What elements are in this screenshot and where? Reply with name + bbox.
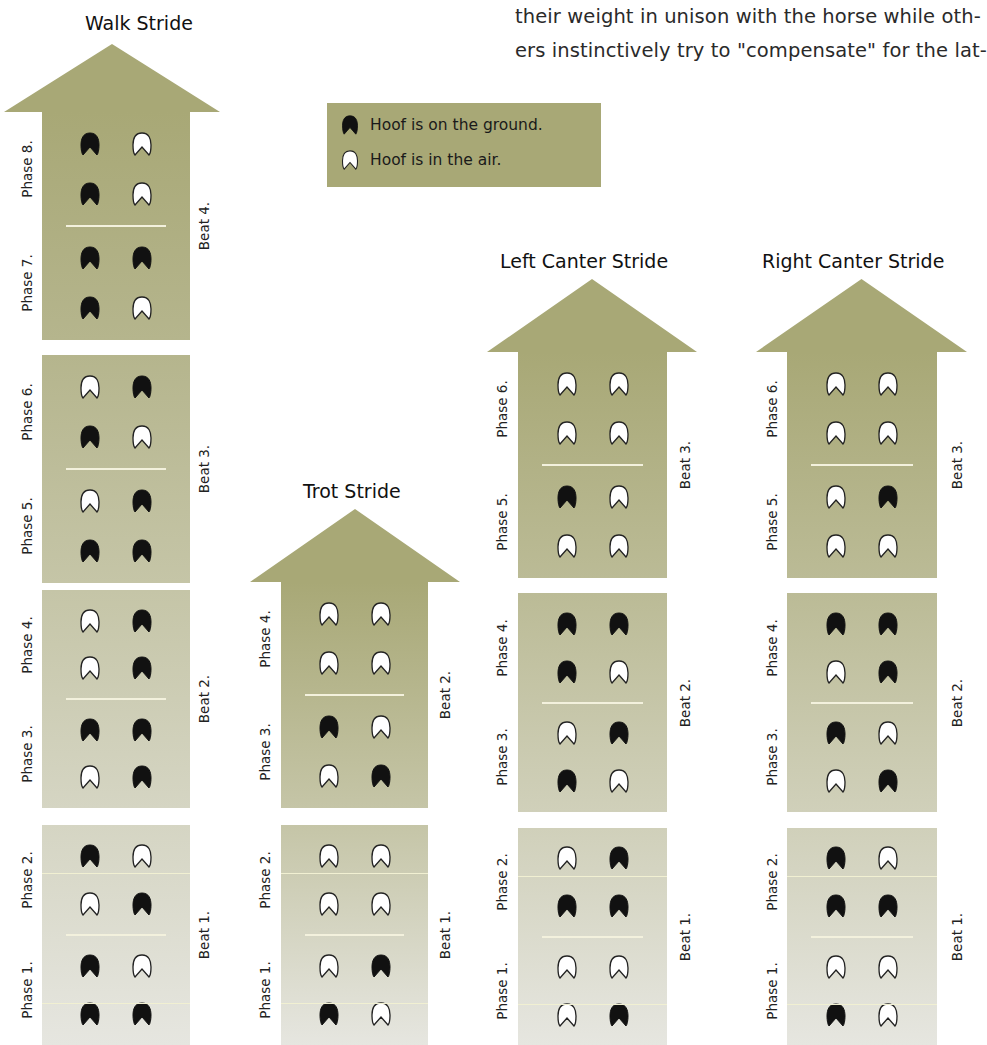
hoof-outline-icon xyxy=(826,769,846,793)
phase-label: Phase 6. xyxy=(764,364,782,454)
beat-label: Beat 2. xyxy=(677,663,695,743)
legend-air: Hoof is in the air. xyxy=(341,150,501,170)
hoof-filled-icon xyxy=(826,1003,846,1027)
hoof-outline-icon xyxy=(132,425,152,449)
stride-title: Trot Stride xyxy=(303,480,401,502)
phase-label: Phase 2. xyxy=(19,835,37,925)
hoof-outline-icon xyxy=(371,602,391,626)
hoof-outline-icon xyxy=(609,955,629,979)
phase-divider xyxy=(542,936,643,938)
hoof-outline-icon xyxy=(609,534,629,558)
hoof-filled-icon xyxy=(878,894,898,918)
phase-divider xyxy=(542,464,643,466)
hoof-outline-icon xyxy=(371,844,391,868)
hoof-filled-icon xyxy=(878,485,898,509)
hoof-outline-icon xyxy=(609,485,629,509)
hoof-filled-icon xyxy=(609,721,629,745)
hoof-filled-icon xyxy=(371,764,391,788)
phase-label: Phase 5. xyxy=(494,477,512,567)
phase-label: Phase 4. xyxy=(764,603,782,693)
hoof-outline-icon xyxy=(80,375,100,399)
beat-label: Beat 1. xyxy=(437,895,455,975)
hoof-outline-icon xyxy=(826,534,846,558)
faint-line xyxy=(787,1004,937,1005)
phase-label: Phase 2. xyxy=(257,835,275,925)
hoof-filled-icon xyxy=(557,612,577,636)
phase-label: Phase 1. xyxy=(19,945,37,1035)
hoof-outline-icon xyxy=(132,132,152,156)
arrow-head-icon xyxy=(487,279,697,353)
hoof-outline-icon xyxy=(826,421,846,445)
hoof-outline-icon xyxy=(826,660,846,684)
beat-label: Beat 3. xyxy=(949,425,967,505)
hoof-filled-icon xyxy=(878,612,898,636)
hoof-filled-icon xyxy=(132,892,152,916)
hoof-outline-icon xyxy=(132,182,152,206)
phase-label: Phase 1. xyxy=(494,946,512,1036)
hoof-outline-icon xyxy=(371,715,391,739)
hoof-outline-icon xyxy=(319,602,339,626)
stride-title: Left Canter Stride xyxy=(500,250,668,272)
hoof-outline-icon xyxy=(826,955,846,979)
stride-title: Right Canter Stride xyxy=(762,250,944,272)
hoof-filled-icon xyxy=(878,769,898,793)
phase-label: Phase 2. xyxy=(494,837,512,927)
beat-label: Beat 2. xyxy=(196,659,214,739)
hoof-outline-icon xyxy=(557,1003,577,1027)
hoof-outline-icon xyxy=(609,660,629,684)
hoof-outline-icon xyxy=(341,150,359,170)
phase-divider xyxy=(66,225,166,227)
legend-box: Hoof is on the ground. Hoof is in the ai… xyxy=(327,103,601,187)
arrow-head-icon xyxy=(756,279,967,353)
hoof-filled-icon xyxy=(826,612,846,636)
hoof-outline-icon xyxy=(878,421,898,445)
phase-label: Phase 5. xyxy=(19,481,37,571)
faint-line xyxy=(518,876,667,877)
hoof-filled-icon xyxy=(878,660,898,684)
paragraph-line: their weight in unison with the horse wh… xyxy=(515,0,987,34)
hoof-outline-icon xyxy=(878,1003,898,1027)
hoof-filled-icon xyxy=(319,1002,339,1026)
hoof-filled-icon xyxy=(557,660,577,684)
hoof-filled-icon xyxy=(80,844,100,868)
hoof-filled-icon xyxy=(826,721,846,745)
beat-label: Beat 1. xyxy=(196,895,214,975)
beat-label: Beat 1. xyxy=(677,897,695,977)
hoof-filled-icon xyxy=(132,1002,152,1026)
phase-divider xyxy=(305,934,404,936)
hoof-outline-icon xyxy=(878,846,898,870)
hoof-outline-icon xyxy=(557,955,577,979)
hoof-outline-icon xyxy=(826,372,846,396)
hoof-outline-icon xyxy=(80,609,100,633)
phase-label: Phase 4. xyxy=(494,603,512,693)
phase-divider xyxy=(305,694,404,696)
hoof-filled-icon xyxy=(341,115,359,135)
hoof-filled-icon xyxy=(609,894,629,918)
hoof-outline-icon xyxy=(371,651,391,675)
hoof-outline-icon xyxy=(557,534,577,558)
phase-divider xyxy=(66,698,166,700)
beat-label: Beat 4. xyxy=(196,186,214,266)
phase-label: Phase 2. xyxy=(764,837,782,927)
phase-divider xyxy=(66,934,166,936)
hoof-filled-icon xyxy=(80,539,100,563)
phase-divider xyxy=(811,464,913,466)
hoof-filled-icon xyxy=(80,182,100,206)
hoof-outline-icon xyxy=(319,954,339,978)
hoof-outline-icon xyxy=(609,372,629,396)
hoof-filled-icon xyxy=(80,132,100,156)
beat-label: Beat 2. xyxy=(949,663,967,743)
phase-label: Phase 8. xyxy=(19,124,37,214)
phase-label: Phase 5. xyxy=(764,477,782,567)
hoof-outline-icon xyxy=(319,651,339,675)
faint-line xyxy=(42,873,190,874)
hoof-outline-icon xyxy=(878,955,898,979)
phase-divider xyxy=(811,702,913,704)
phase-label: Phase 6. xyxy=(494,364,512,454)
hoof-outline-icon xyxy=(319,764,339,788)
hoof-filled-icon xyxy=(132,609,152,633)
hoof-outline-icon xyxy=(80,656,100,680)
faint-line xyxy=(518,1004,667,1005)
hoof-outline-icon xyxy=(878,534,898,558)
faint-line xyxy=(42,1003,190,1004)
